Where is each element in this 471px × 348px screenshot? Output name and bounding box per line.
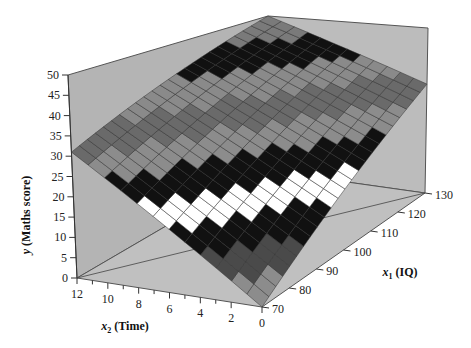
x1-tick-label: 70 [272,302,284,316]
y-axis-title: y (Maths score) [19,176,33,256]
x1-tick-label: 130 [435,188,453,202]
x2-axis-title: x2 (Time) [100,319,148,335]
x1-tick [262,307,269,308]
x1-tick [371,231,378,232]
y-tick-label: 10 [54,230,66,244]
y-tick-label: 5 [61,251,67,265]
x2-tick-label: 10 [102,292,114,306]
x2-tick-label: 8 [136,297,142,311]
x1-tick-label: 90 [326,264,338,278]
x1-tick-label: 110 [381,226,399,240]
x1-tick-label: 100 [354,245,372,259]
x1-axis-title: x1 (IQ) [382,265,418,281]
surface-chart: 0510152025303540455012108642070809010011… [0,0,471,348]
y-tick-label: 20 [52,190,64,204]
y-tick-label: 45 [48,88,60,102]
y-tick-label: 50 [47,68,59,82]
x1-tick-label: 120 [408,207,426,221]
x2-tick-label: 0 [259,316,265,330]
x2-tick-label: 4 [197,306,203,320]
y-tick-label: 15 [53,210,65,224]
x1-tick [289,288,296,289]
y-tick-label: 25 [52,170,64,184]
x1-tick-label: 80 [299,283,311,297]
x1-tick [344,250,351,251]
y-tick-label: 35 [50,129,62,143]
x2-tick-label: 2 [228,311,234,325]
x1-tick [425,193,432,194]
x2-tick-label: 12 [71,287,83,301]
y-tick-label: 40 [49,109,61,123]
x1-tick [316,269,323,270]
x1-tick [398,212,405,213]
y-tick-label: 30 [51,149,63,163]
x2-tick-label: 6 [167,302,173,316]
y-tick-label: 0 [62,271,68,285]
